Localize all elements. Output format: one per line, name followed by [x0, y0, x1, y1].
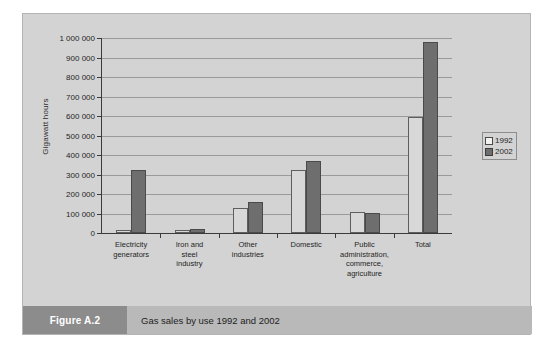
y-tick-label: 300 000	[66, 170, 95, 179]
legend-label-1992: 1992	[495, 136, 513, 145]
gridline	[102, 77, 452, 78]
x-tick-mark	[219, 233, 220, 238]
bar-2002	[306, 161, 321, 233]
y-tick-label: 100 000	[66, 209, 95, 218]
x-tick-mark	[335, 233, 336, 238]
y-tick-mark	[97, 136, 102, 137]
figure-panel: Gigawatt hours 0100 000200 000300 000400…	[22, 13, 531, 335]
legend-item-2002: 2002	[485, 146, 513, 157]
y-tick-label: 0	[91, 229, 95, 238]
legend-label-2002: 2002	[495, 147, 513, 156]
figure-container: Gigawatt hours 0100 000200 000300 000400…	[0, 0, 553, 351]
bar-2002	[423, 42, 438, 233]
bar-1992	[233, 208, 248, 233]
y-tick-mark	[97, 155, 102, 156]
gridline	[102, 214, 452, 215]
plot-area: 0100 000200 000300 000400 000500 000600 …	[102, 38, 452, 233]
figure-caption-text: Gas sales by use 1992 and 2002	[127, 306, 532, 334]
y-tick-label: 600 000	[66, 112, 95, 121]
y-tick-mark	[97, 194, 102, 195]
gridline	[102, 116, 452, 117]
gridline	[102, 194, 452, 195]
x-category-label: Total	[386, 240, 460, 250]
bar-1992	[175, 230, 190, 233]
y-tick-mark	[97, 77, 102, 78]
gridline	[102, 155, 452, 156]
y-tick-mark	[97, 233, 102, 234]
plot-inner: 0100 000200 000300 000400 000500 000600 …	[102, 38, 452, 233]
bar-1992	[291, 170, 306, 233]
x-tick-mark	[277, 233, 278, 238]
y-tick-label: 400 000	[66, 151, 95, 160]
y-axis-title: Gigawatt hours	[41, 67, 50, 187]
y-tick-label: 200 000	[66, 190, 95, 199]
gridline	[102, 136, 452, 137]
y-tick-label: 500 000	[66, 131, 95, 140]
bar-2002	[190, 229, 205, 233]
y-tick-label: 1 000 000	[59, 34, 95, 43]
gridline	[102, 58, 452, 59]
bar-1992	[350, 212, 365, 233]
legend-swatch-1992-icon	[485, 137, 493, 145]
y-tick-mark	[97, 116, 102, 117]
x-tick-mark	[160, 233, 161, 238]
y-tick-label: 700 000	[66, 92, 95, 101]
y-tick-label: 900 000	[66, 53, 95, 62]
figure-number-tag: Figure A.2	[23, 306, 127, 334]
y-tick-mark	[97, 175, 102, 176]
y-tick-mark	[97, 214, 102, 215]
bar-1992	[408, 117, 423, 233]
chart-area: Gigawatt hours 0100 000200 000300 000400…	[23, 14, 532, 296]
y-tick-mark	[97, 38, 102, 39]
gridline	[102, 175, 452, 176]
legend-item-1992: 1992	[485, 135, 513, 146]
bar-1992	[116, 230, 131, 234]
x-tick-mark	[394, 233, 395, 238]
y-tick-mark	[97, 97, 102, 98]
legend-swatch-2002-icon	[485, 148, 493, 156]
gridline	[102, 38, 452, 39]
chart-legend: 1992 2002	[482, 132, 517, 160]
y-tick-label: 800 000	[66, 73, 95, 82]
gridline	[102, 97, 452, 98]
bar-2002	[248, 202, 263, 233]
figure-caption-bar: Figure A.2 Gas sales by use 1992 and 200…	[23, 306, 532, 334]
bar-2002	[365, 213, 380, 233]
bar-2002	[131, 170, 146, 233]
y-tick-mark	[97, 58, 102, 59]
